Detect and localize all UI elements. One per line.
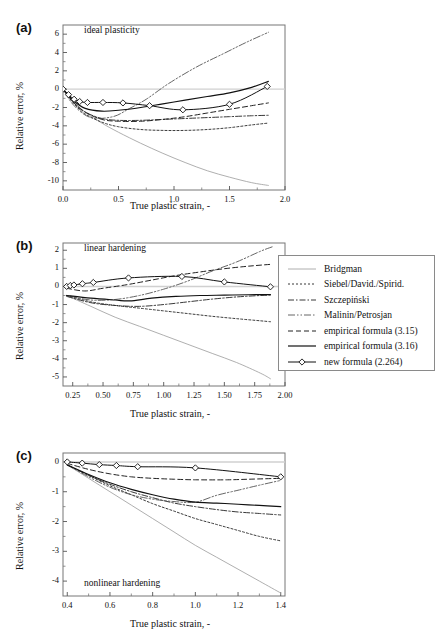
legend-item-label: Szczepiński <box>324 294 369 306</box>
axis-title-y-c: Relative error, % <box>14 502 25 570</box>
series-line <box>67 276 271 287</box>
series-line <box>67 465 280 507</box>
y-tick-label: -6 <box>29 138 59 148</box>
y-tick-label: 2 <box>29 244 59 254</box>
y-tick-label: 0 <box>29 280 59 290</box>
y-tick-label: -10 <box>29 175 59 185</box>
series-marker-diamond <box>84 99 90 105</box>
legend-item-label: Siebel/David./Spirid. <box>324 278 404 290</box>
y-tick-label: 0 <box>29 83 59 93</box>
legend-line-sample <box>287 263 317 275</box>
x-tick-label: 1.4 <box>263 600 299 610</box>
series-marker-diamond <box>113 462 119 468</box>
y-tick-label: -4 <box>29 120 59 130</box>
series-marker-diamond <box>125 275 131 281</box>
legend-item[interactable]: new formula (2.264) <box>287 354 402 369</box>
axis-title-y-a: Relative error, % <box>14 82 25 150</box>
legend-line-sample <box>287 325 317 337</box>
series-marker-diamond <box>192 465 198 471</box>
series-line <box>67 465 280 593</box>
y-tick-label: -1 <box>29 299 59 309</box>
y-tick-label: -4 <box>29 353 59 363</box>
plot-frame <box>63 453 285 596</box>
x-tick-label: 2.00 <box>267 390 303 400</box>
legend-item-label: Bridgman <box>324 263 362 275</box>
y-tick-label: -2 <box>29 516 59 526</box>
axis-title-x-c: True plastic strain, - <box>70 618 270 629</box>
y-tick-label: 6 <box>29 28 59 38</box>
legend-line-sample <box>287 309 317 321</box>
y-tick-label: -8 <box>29 157 59 167</box>
plot-panel-b <box>63 243 285 386</box>
legend-box: BridgmanSiebel/David./Spirid.Szczepiński… <box>278 255 435 371</box>
y-tick-label: 1 <box>29 262 59 272</box>
series-line <box>67 295 271 301</box>
y-tick-label: 4 <box>29 47 59 57</box>
legend-item[interactable]: Siebel/David./Spirid. <box>287 277 404 292</box>
legend-item-label: empirical formula (3.15) <box>324 325 418 337</box>
y-tick-label: -1 <box>29 486 59 496</box>
axis-title-y-b: Relative error, % <box>14 292 25 360</box>
series-line <box>63 32 268 118</box>
series-marker-diamond <box>79 460 85 466</box>
series-marker-diamond <box>135 464 141 470</box>
legend-item[interactable]: empirical formula (3.15) <box>287 323 418 338</box>
legend-item-label: new formula (2.264) <box>324 356 402 368</box>
y-tick-label: 0 <box>29 456 59 466</box>
plot-panel-a <box>60 25 285 190</box>
series-line <box>67 295 271 378</box>
series-marker-diamond <box>267 284 273 290</box>
x-tick-label: 0.6 <box>92 600 128 610</box>
series-marker-diamond <box>179 273 185 279</box>
x-tick-label: 1.0 <box>156 194 192 204</box>
x-tick-label: 1.5 <box>212 194 248 204</box>
y-tick-label: -5 <box>29 371 59 381</box>
legend-line-sample <box>287 340 317 352</box>
series-marker-diamond <box>90 279 96 285</box>
plot-frame <box>63 25 285 190</box>
x-tick-label: 0.5 <box>101 194 137 204</box>
legend-item[interactable]: Bridgman <box>287 261 362 276</box>
series-marker-diamond <box>226 101 232 107</box>
y-tick-label: 2 <box>29 65 59 75</box>
series-line <box>67 465 280 503</box>
series-marker-diamond <box>221 279 227 285</box>
y-tick-label: -2 <box>29 317 59 327</box>
panel-title-a: ideal plasticity <box>84 25 140 35</box>
y-tick-label: -2 <box>29 102 59 112</box>
x-tick-label: 0.4 <box>49 600 85 610</box>
series-marker-diamond <box>180 107 186 113</box>
legend-line-sample <box>287 294 317 306</box>
plot-frame <box>63 243 285 386</box>
legend-item[interactable]: Szczepiński <box>287 292 369 307</box>
plot-panel-c <box>63 453 285 596</box>
legend-item-label: empirical formula (3.16) <box>324 340 418 352</box>
y-tick-label: -3 <box>29 335 59 345</box>
series-marker-diamond <box>100 99 106 105</box>
x-tick-label: 0.0 <box>45 194 81 204</box>
x-tick-label: 0.8 <box>135 600 171 610</box>
series-line <box>63 89 268 120</box>
series-marker-diamond <box>146 103 152 109</box>
legend-line-sample <box>287 356 317 368</box>
series-line <box>67 465 280 541</box>
series-line <box>67 247 273 301</box>
series-line <box>67 465 280 515</box>
legend-line-sample <box>287 278 317 290</box>
x-tick-label: 1.2 <box>220 600 256 610</box>
legend-item[interactable]: empirical formula (3.16) <box>287 339 418 354</box>
axis-title-x-b: True plastic strain, - <box>70 408 270 419</box>
legend-item-label: Malinin/Petrosjan <box>324 309 392 321</box>
figure-root: (a) ideal plasticity True plastic strain… <box>0 0 440 641</box>
y-tick-label: -4 <box>29 575 59 585</box>
panel-title-c: nonlinear hardening <box>84 578 160 588</box>
legend-item[interactable]: Malinin/Petrosjan <box>287 308 392 323</box>
y-tick-label: -3 <box>29 545 59 555</box>
x-tick-label: 2.0 <box>267 194 303 204</box>
series-marker-diamond <box>120 100 126 106</box>
series-line <box>63 86 267 109</box>
panel-title-b: linear hardening <box>84 243 146 253</box>
series-line <box>67 295 271 321</box>
x-tick-label: 1.0 <box>177 600 213 610</box>
series-marker-diamond <box>278 474 284 480</box>
